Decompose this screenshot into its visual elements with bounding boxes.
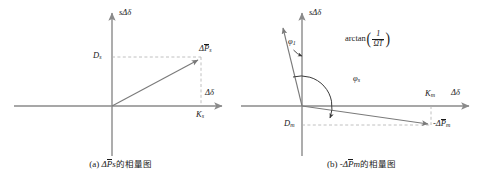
- caption-b: (b) -ΔPm的相量图: [241, 157, 482, 169]
- label-phi-1: φ1: [288, 37, 296, 46]
- panel-b-phasor-neg-delta-pm: sΔδ Δδ φ1 φs arctan ( 1 ΩT ) Dm: [241, 0, 482, 182]
- paren-close: ): [385, 32, 390, 46]
- label-dm: Dm: [284, 119, 294, 128]
- angle-arc-phis: [293, 76, 332, 118]
- y-axis-label-b: sΔδ: [309, 8, 321, 17]
- label-ks: Ks: [196, 110, 204, 119]
- phasor-diagram-figure: sΔδ Δδ ΔPs Ds Ks (a) ΔPs的相量图: [0, 0, 482, 182]
- arctan-expression: arctan ( 1 ΩT ): [345, 30, 390, 47]
- vector-neg-delta-pm: [302, 106, 428, 124]
- vector-label-neg-delta-pm: -ΔPm: [433, 119, 450, 128]
- panel-b-drawing: [241, 0, 482, 182]
- caption-a: (a) ΔPs的相量图: [0, 157, 241, 169]
- label-ds: Ds: [93, 51, 101, 60]
- vector-delta-ps: [112, 60, 198, 106]
- label-phi-s: φs: [353, 74, 360, 83]
- label-km: Km: [425, 89, 435, 98]
- x-axis-label-a: Δδ: [205, 88, 214, 97]
- vector-label-delta-ps: ΔPs: [199, 44, 212, 53]
- x-axis-label-b: Δδ: [451, 88, 460, 97]
- fraction-one-over-omega-t: 1 ΩT: [372, 30, 384, 47]
- angle-arc-phi1: [294, 50, 303, 56]
- y-axis-label-a: sΔδ: [119, 8, 131, 17]
- paren-open: (: [367, 32, 372, 46]
- panel-a-phasor-delta-ps: sΔδ Δδ ΔPs Ds Ks (a) ΔPs的相量图: [0, 0, 241, 182]
